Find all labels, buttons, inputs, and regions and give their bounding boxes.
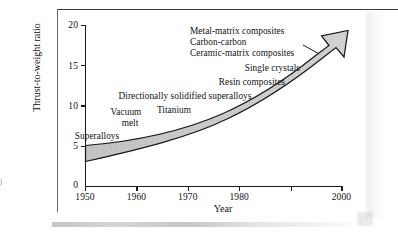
- y-tick-label-10: 10: [52, 101, 78, 111]
- y-axis-line: [85, 25, 86, 186]
- x-tick-1990: [291, 186, 292, 191]
- y-axis-title: Thrust-to-weight ratio: [31, 14, 42, 122]
- y-tick-10: [81, 105, 86, 106]
- annotation-single-crystals: Single crystals: [170, 63, 300, 74]
- figure-page: 9: [0, 0, 398, 249]
- y-tick-label-5: 5: [52, 141, 78, 151]
- annotation-resin-composites: Resin composites: [150, 77, 285, 88]
- annotation-metal-matrix-composites: Metal-matrix composites: [190, 26, 284, 37]
- x-axis-line: [85, 186, 342, 187]
- y-tick-label-20: 20: [52, 20, 78, 30]
- x-tick-label-1980: 1980: [219, 192, 259, 202]
- annotation-superalloys: Superalloys: [57, 131, 137, 142]
- x-tick-label-1970: 1970: [168, 192, 208, 202]
- x-tick-1970: [188, 186, 189, 191]
- x-axis-title: Year: [193, 203, 253, 214]
- y-tick-20: [81, 25, 86, 26]
- x-tick-label-1950: 1950: [65, 192, 105, 202]
- annotation-ceramic-matrix-composites: Ceramic-matrix composites: [190, 48, 294, 59]
- annotation-vacuum: Vacuum: [96, 107, 156, 118]
- x-tick-1980: [239, 186, 240, 191]
- annotation-leader-line: [303, 45, 319, 54]
- x-tick-label-2000: 2000: [321, 192, 361, 202]
- y-tick-label-15: 15: [52, 61, 78, 71]
- y-tick-15: [81, 65, 86, 66]
- annotation-directionally-solidified-superalloys: Directionally solidified superalloys: [90, 91, 280, 102]
- x-tick-1960: [136, 186, 137, 191]
- annotation-carbon-carbon: Carbon-carbon: [190, 37, 246, 48]
- chart-plot-area: 20 15 10 5 0 1950 1960 1970 1980 2000 Th…: [0, 0, 398, 249]
- x-tick-1950: [85, 186, 86, 191]
- x-tick-2000: [341, 186, 342, 191]
- y-tick-5: [81, 146, 86, 147]
- annotation-melt: melt: [100, 118, 160, 129]
- y-tick-label-0: 0: [52, 180, 78, 190]
- x-tick-label-1960: 1960: [116, 192, 156, 202]
